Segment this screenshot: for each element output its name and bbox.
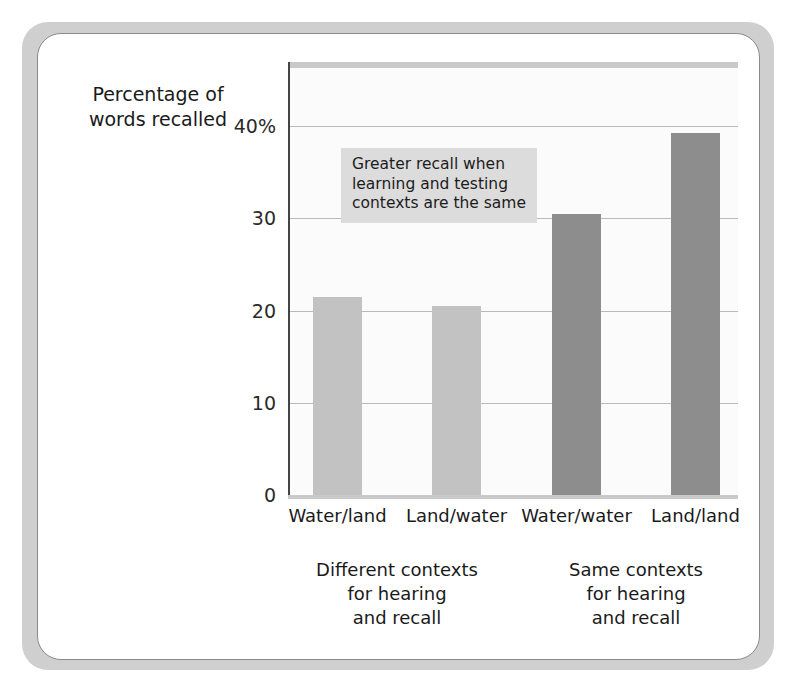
- bar-land-land[interactable]: [671, 133, 720, 495]
- group-caption-same-contexts: Same contextsfor hearingand recall: [569, 558, 703, 630]
- group-caption-line-1: Different contexts: [316, 558, 478, 582]
- category-label-water-water: Water/water: [521, 505, 632, 526]
- group-caption-different-contexts: Different contextsfor hearingand recall: [316, 558, 478, 630]
- plot-top-band: [288, 62, 738, 68]
- y-tick-label-0: 0: [264, 484, 276, 506]
- bar-water-water[interactable]: [552, 214, 601, 495]
- bar-water-land[interactable]: [313, 297, 362, 495]
- y-tick-label-10: 10: [252, 392, 276, 414]
- y-axis-title: Percentage of words recalled: [63, 82, 253, 132]
- group-caption-line-2: for hearing: [316, 582, 478, 606]
- group-caption-line-1: Same contexts: [569, 558, 703, 582]
- category-label-land-water: Land/water: [406, 505, 507, 526]
- annotation-line-3: contexts are the same: [352, 194, 527, 214]
- y-tick-label-20: 20: [252, 300, 276, 322]
- y-axis-line: [288, 62, 290, 497]
- gridline-40: [288, 126, 738, 127]
- y-tick-label-40%: 40%: [234, 115, 276, 137]
- group-caption-line-3: and recall: [316, 606, 478, 630]
- category-label-water-land: Water/land: [288, 505, 386, 526]
- y-axis-title-line-2: words recalled: [63, 107, 253, 132]
- annotation-line-2: learning and testing: [352, 175, 527, 195]
- group-caption-line-2: for hearing: [569, 582, 703, 606]
- annotation-callout: Greater recall when learning and testing…: [341, 148, 537, 223]
- y-axis-title-line-1: Percentage of: [63, 82, 253, 107]
- bar-land-water[interactable]: [432, 306, 481, 495]
- group-caption-line-3: and recall: [569, 606, 703, 630]
- plot-area: 010203040% Greater recall when learning …: [288, 62, 738, 497]
- category-label-land-land: Land/land: [651, 505, 740, 526]
- annotation-line-1: Greater recall when: [352, 155, 527, 175]
- x-axis-line: [288, 495, 738, 499]
- y-tick-label-30: 30: [252, 207, 276, 229]
